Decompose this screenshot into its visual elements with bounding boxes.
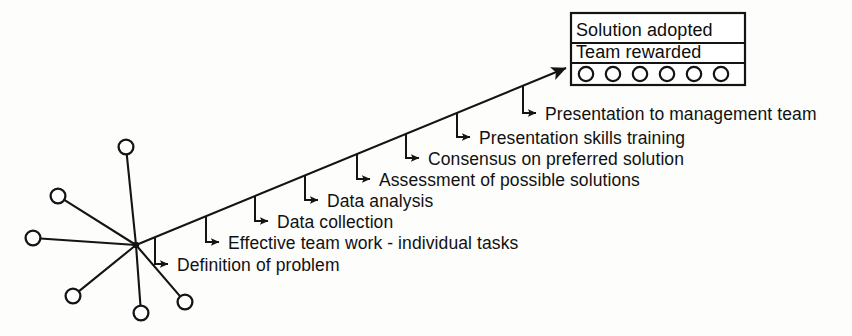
- process-diagram: Definition of problemEffective team work…: [0, 0, 852, 336]
- stage-label-8: Presentation to management team: [545, 104, 817, 124]
- team-node-top: [119, 140, 134, 155]
- stage-label-6: Consensus on preferred solution: [428, 149, 684, 169]
- outcome-team-member-5: [687, 67, 701, 81]
- diagram-root: Definition of problemEffective team work…: [0, 0, 852, 336]
- outcome-team-member-1: [579, 67, 593, 81]
- stage-branch-1: [155, 237, 168, 264]
- stage-branch-2: [206, 216, 219, 242]
- team-node-lower-right: [178, 295, 193, 310]
- stage-branch-8: [523, 86, 536, 113]
- stage-label-3: Data collection: [277, 212, 393, 232]
- team-node-left: [26, 231, 41, 246]
- stage-label-5: Assessment of possible solutions: [379, 170, 640, 190]
- stage-branch-7: [457, 113, 470, 137]
- stage-branch-6: [406, 134, 419, 158]
- outcome-line-1: Solution adopted: [576, 20, 713, 40]
- team-node-bottom-spoke: [136, 245, 140, 306]
- team-node-top-spoke: [127, 154, 136, 245]
- stage-branch-4: [305, 175, 318, 200]
- team-node-upper-left: [51, 189, 66, 204]
- stage-label-7: Presentation skills training: [479, 128, 685, 148]
- team-node-lower-right-spoke: [136, 245, 180, 296]
- team-node-left-spoke: [40, 239, 136, 245]
- outcome-box: Solution adoptedTeam rewarded: [571, 13, 745, 85]
- team-network-starburst: [26, 140, 193, 321]
- stage-branch-3: [255, 196, 268, 221]
- team-node-upper-left-spoke: [64, 200, 136, 245]
- team-node-bottom: [134, 306, 149, 321]
- outcome-team-member-2: [606, 67, 620, 81]
- outcome-line-2: Team rewarded: [576, 42, 701, 62]
- stage-label-2: Effective team work - individual tasks: [228, 233, 519, 253]
- team-node-lower-left: [66, 289, 81, 304]
- outcome-team-member-4: [660, 67, 674, 81]
- stage-branch-5: [357, 154, 370, 179]
- team-node-lower-left-spoke: [79, 245, 136, 291]
- stage-label-1: Definition of problem: [177, 255, 340, 275]
- stage-label-4: Data analysis: [327, 191, 434, 211]
- outcome-team-member-6: [714, 67, 728, 81]
- outcome-team-member-3: [633, 67, 647, 81]
